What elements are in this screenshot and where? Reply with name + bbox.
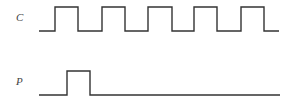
signal-p-waveform	[39, 71, 280, 95]
waveforms	[0, 0, 297, 104]
signal-c-waveform	[39, 7, 279, 31]
timing-diagram: C P	[0, 0, 297, 104]
